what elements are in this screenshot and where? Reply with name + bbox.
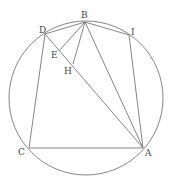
circumcircle	[9, 21, 163, 175]
segment-BA	[85, 22, 143, 148]
label-I: I	[131, 27, 135, 37]
label-B: B	[81, 10, 88, 20]
segments	[29, 22, 143, 148]
segment-DC	[29, 34, 45, 148]
label-E: E	[51, 50, 58, 60]
label-H: H	[64, 66, 72, 76]
label-D: D	[39, 25, 46, 35]
segment-DA	[45, 34, 143, 148]
segment-IA	[129, 35, 143, 148]
geometry-diagram: A B C D E H I	[0, 0, 169, 184]
label-A: A	[144, 148, 152, 158]
label-C: C	[18, 147, 25, 157]
